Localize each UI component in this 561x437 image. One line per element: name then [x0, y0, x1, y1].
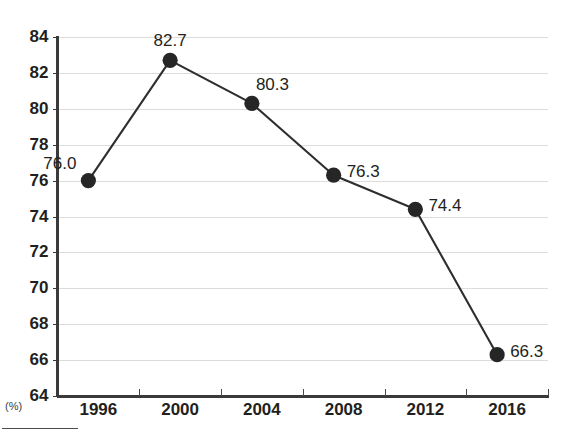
- y-axis-tick-label: 80: [30, 99, 49, 118]
- y-axis-tick-label: 72: [30, 242, 49, 261]
- y-axis-tick-label: 70: [30, 278, 49, 297]
- y-axis-tick-label: 74: [30, 207, 49, 226]
- data-point-marker: [408, 202, 423, 217]
- x-axis-tick-label: 2000: [161, 400, 199, 419]
- data-point-marker: [490, 347, 505, 362]
- data-value-label: 76.3: [347, 162, 380, 181]
- y-axis-tick-label: 76: [30, 171, 49, 190]
- data-point-marker: [81, 173, 96, 188]
- y-axis-tick-label: 64: [30, 386, 49, 405]
- data-point-marker: [163, 53, 178, 68]
- data-value-label: 66.3: [510, 342, 543, 361]
- x-axis-tick-label: 2008: [325, 400, 363, 419]
- data-point-marker: [326, 168, 341, 183]
- y-axis-tick-label: 78: [30, 135, 49, 154]
- x-axis-tick-label: 2004: [243, 400, 281, 419]
- x-axis-tick-label: 2016: [488, 400, 526, 419]
- y-axis-tick-label: 66: [30, 350, 49, 369]
- y-axis-tick-label: 82: [30, 63, 49, 82]
- data-value-label: 74.4: [428, 196, 461, 215]
- data-value-label: 80.3: [256, 75, 289, 94]
- data-value-label: 76.0: [43, 154, 76, 173]
- y-axis-tick-label: 84: [30, 27, 49, 46]
- data-value-label: 82.7: [154, 31, 187, 50]
- x-axis-tick-label: 1996: [79, 400, 117, 419]
- chart-canvas: 6466687072747678808284 19962000200420082…: [0, 0, 561, 437]
- y-axis-tick-label: 68: [30, 314, 49, 333]
- chart-background: [0, 0, 561, 437]
- x-axis-tick-label: 2012: [406, 400, 444, 419]
- line-chart: 6466687072747678808284 19962000200420082…: [0, 0, 561, 437]
- y-axis-unit-label: (%): [5, 400, 22, 412]
- data-point-marker: [244, 96, 259, 111]
